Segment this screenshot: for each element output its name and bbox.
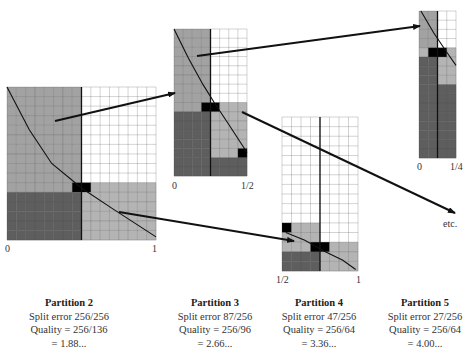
- p2-grid: [7, 87, 156, 240]
- p3-axis-right: 1/2: [241, 180, 254, 191]
- p5-caption: Partition 5 Split error 27/256 Quality =…: [370, 296, 469, 350]
- p5-axis-right: 1/4: [450, 161, 463, 172]
- p2-quality: Quality = 256/136: [14, 323, 124, 337]
- p4-caption: Partition 4 Split error 47/256 Quality =…: [264, 296, 374, 350]
- p2-title: Partition 2: [14, 296, 124, 310]
- p5-value: = 4.00...: [370, 337, 469, 351]
- p3-title: Partition 3: [160, 296, 270, 310]
- p2-value: = 1.88...: [14, 337, 124, 351]
- p3-axis-left: 0: [172, 180, 177, 191]
- p2-axis-right: 1: [152, 243, 157, 254]
- p4-split-error: Split error 47/256: [264, 310, 374, 324]
- p2-split-error: Split error 256/256: [14, 310, 124, 324]
- p5-axis-left: 0: [417, 161, 422, 172]
- p3-value: = 2.66...: [160, 337, 270, 351]
- p4-quality: Quality = 256/64: [264, 323, 374, 337]
- p5-quality: Quality = 256/64: [370, 323, 469, 337]
- p4-grid: [282, 117, 358, 271]
- p3-quality: Quality = 256/96: [160, 323, 270, 337]
- p4-axis-left: 1/2: [276, 274, 289, 285]
- p4-title: Partition 4: [264, 296, 374, 310]
- p5-split-error: Split error 27/256: [370, 310, 469, 324]
- etc-label: etc.: [443, 218, 457, 229]
- p5-grid: [419, 11, 456, 158]
- p4-value: = 3.36...: [264, 337, 374, 351]
- p5-title: Partition 5: [370, 296, 469, 310]
- p3-caption: Partition 3 Split error 87/256 Quality =…: [160, 296, 270, 350]
- p2-axis-left: 0: [5, 243, 10, 254]
- p4-axis-right: 1: [356, 274, 361, 285]
- p3-split-error: Split error 87/256: [160, 310, 270, 324]
- p2-caption: Partition 2 Split error 256/256 Quality …: [14, 296, 124, 350]
